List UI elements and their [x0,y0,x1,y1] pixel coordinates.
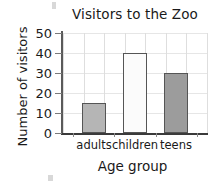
scan-artifact [52,2,56,9]
x-tick-mark [197,133,198,137]
y-axis-tick-labels: 01020304050 [18,0,52,183]
y-tick-label: 10 [18,107,52,120]
y-tick-label: 20 [18,87,52,100]
y-tick-mark [55,133,62,134]
x-category-label-teens: teens [146,138,206,152]
bar-children [123,53,147,133]
y-tick-mark [55,33,62,34]
plot-area [63,33,207,133]
x-axis-line [61,133,208,135]
y-tick-label: 50 [18,27,52,40]
chart-title: Visitors to the Zoo [60,6,210,22]
y-tick-mark [55,113,62,114]
bar-adults [82,103,106,133]
x-tick-mark [156,133,157,137]
bar-chart: Visitors to the Zoo Number of visitors A… [0,0,213,183]
bar-teens [164,73,188,133]
x-axis-label: Age group [55,158,210,174]
y-tick-mark [55,53,62,54]
x-tick-mark [114,133,115,137]
y-tick-label: 0 [18,127,52,140]
y-axis-line [61,31,63,135]
x-tick-mark [73,133,74,137]
y-tick-label: 30 [18,67,52,80]
vertical-gridline [63,33,64,133]
y-tick-mark [55,73,62,74]
y-tick-label: 40 [18,47,52,60]
vertical-gridline [207,33,208,133]
y-tick-mark [55,93,62,94]
